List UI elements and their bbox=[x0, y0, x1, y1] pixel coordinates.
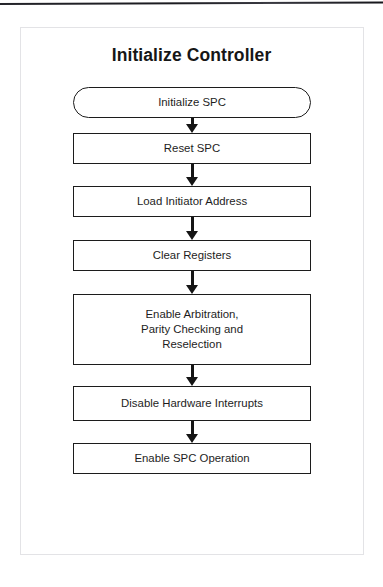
flow-node-enable-arbitration[interactable]: Enable Arbitration, Parity Checking and … bbox=[73, 294, 311, 365]
flow-arrow-down-icon bbox=[186, 421, 199, 443]
flow-node-enable-spc-operation[interactable]: Enable SPC Operation bbox=[73, 443, 311, 474]
flow-node-label: Reset SPC bbox=[158, 141, 226, 156]
flow-node-label: Enable SPC Operation bbox=[128, 451, 255, 466]
flow-node-load-initiator-address[interactable]: Load Initiator Address bbox=[73, 186, 311, 217]
flow-arrow-down-icon bbox=[186, 271, 199, 294]
flow-node-reset-spc[interactable]: Reset SPC bbox=[73, 133, 311, 164]
flow-node-label: Disable Hardware Interrupts bbox=[115, 396, 269, 411]
flow-node-label: Enable Arbitration, Parity Checking and … bbox=[135, 307, 249, 352]
scanned-page-rule bbox=[0, 2, 383, 5]
flow-arrow-down-icon bbox=[186, 118, 199, 133]
flow-node-disable-hardware-interrupts[interactable]: Disable Hardware Interrupts bbox=[73, 386, 311, 421]
flow-node-label: Clear Registers bbox=[147, 248, 238, 263]
page-title: Initialize Controller bbox=[0, 45, 383, 66]
flow-node-initialize-spc[interactable]: Initialize SPC bbox=[73, 87, 311, 118]
flow-arrow-down-icon bbox=[186, 217, 199, 240]
flow-arrow-down-icon bbox=[186, 365, 199, 386]
flow-node-label: Load Initiator Address bbox=[131, 194, 253, 209]
flow-node-clear-registers[interactable]: Clear Registers bbox=[73, 240, 311, 271]
flow-node-label: Initialize SPC bbox=[152, 95, 232, 110]
flow-arrow-down-icon bbox=[186, 164, 199, 186]
